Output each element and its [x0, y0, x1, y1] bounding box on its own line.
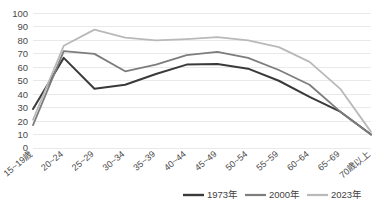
- y-axis-tick-label: 50: [17, 75, 28, 86]
- x-axis-tick-label: 60~64: [285, 149, 311, 173]
- x-axis-tick-label: 70歳以上: [337, 148, 372, 180]
- y-axis-tick-label: 60: [17, 62, 28, 73]
- y-axis-tick-label: 40: [17, 89, 28, 100]
- gridlines: [33, 14, 371, 149]
- x-axis-tick-label: 40~44: [162, 149, 188, 173]
- series-lines: [33, 30, 371, 135]
- x-axis-tick-label: 25~29: [70, 149, 96, 173]
- legend-label-2023年: 2023年: [331, 189, 362, 200]
- legend-label-2000年: 2000年: [269, 189, 300, 200]
- y-axis-tick-labels: 0102030405060708090100: [12, 8, 28, 154]
- y-axis-tick-label: 20: [17, 116, 28, 127]
- x-axis-tick-label: 65~69: [316, 149, 342, 173]
- x-axis-tick-label: 20~24: [39, 149, 65, 173]
- y-axis-tick-label: 80: [17, 35, 28, 46]
- y-axis-tick-label: 70: [17, 48, 28, 59]
- chart-container: 0102030405060708090100 15~19歳20~2425~293…: [0, 0, 377, 205]
- x-axis-tick-label: 35~39: [131, 149, 157, 173]
- legend-label-1973年: 1973年: [207, 189, 238, 200]
- y-axis-tick-label: 100: [12, 8, 28, 19]
- chart-legend: 1973年2000年2023年: [183, 189, 362, 200]
- y-axis-tick-label: 10: [17, 129, 28, 140]
- x-axis-tick-label: 15~19歳: [1, 148, 34, 178]
- y-axis-tick-label: 90: [17, 21, 28, 32]
- line-chart: 0102030405060708090100 15~19歳20~2425~293…: [0, 0, 377, 205]
- series-line-1973年: [33, 58, 371, 135]
- x-axis-tick-label: 50~54: [224, 149, 250, 173]
- x-axis-tick-label: 55~59: [254, 149, 280, 173]
- y-axis-tick-label: 30: [17, 102, 28, 113]
- x-axis-tick-label: 30~34: [101, 149, 127, 173]
- x-axis-tick-labels: 15~19歳20~2425~2930~3435~3940~4445~4950~5…: [1, 148, 372, 180]
- x-axis-tick-label: 45~49: [193, 149, 219, 173]
